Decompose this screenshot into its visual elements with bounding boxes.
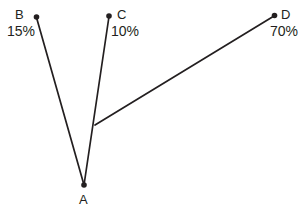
node-value-d: 70% [270, 24, 298, 38]
node-value-b: 15% [7, 24, 35, 38]
node-label-a: A [79, 193, 88, 206]
edge-a-to-c [84, 17, 109, 186]
node-label-b: B [15, 8, 24, 21]
node-label-d: D [281, 8, 291, 21]
node-dot-a[interactable] [81, 182, 87, 188]
node-label-c: C [117, 8, 127, 21]
edge-a-to-b [37, 18, 85, 186]
node-dot-d[interactable] [272, 13, 278, 19]
diagram-canvas: B 15% C 10% D 70% A [0, 0, 306, 213]
diagram-graphics [0, 0, 306, 213]
node-dot-c[interactable] [106, 13, 112, 19]
node-dot-b[interactable] [34, 14, 40, 20]
node-value-c: 10% [111, 24, 139, 38]
